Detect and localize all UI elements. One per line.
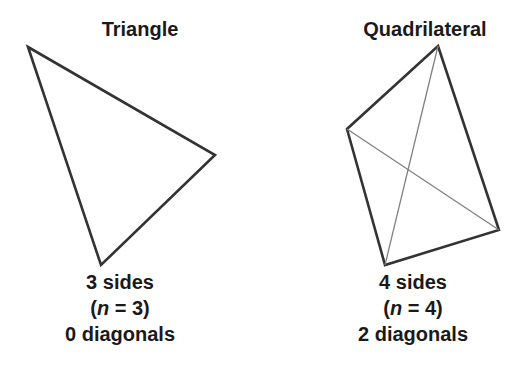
- quadrilateral-diagonals-label: 2 diagonals: [333, 321, 493, 347]
- triangle-sides-label: 3 sides: [40, 269, 200, 295]
- quadrilateral-sides-label: 4 sides: [333, 269, 493, 295]
- quadrilateral-shape: [347, 46, 499, 265]
- triangle-diagonals-label: 0 diagonals: [40, 321, 200, 347]
- quadrilateral-n-label: (n = 4): [333, 295, 493, 321]
- triangle-shape: [28, 47, 215, 265]
- triangle-caption: 3 sides (n = 3) 0 diagonals: [40, 269, 200, 347]
- quadrilateral-diagonal-1: [385, 46, 438, 265]
- triangle-n-label: (n = 3): [40, 295, 200, 321]
- quadrilateral-caption: 4 sides (n = 4) 2 diagonals: [333, 269, 493, 347]
